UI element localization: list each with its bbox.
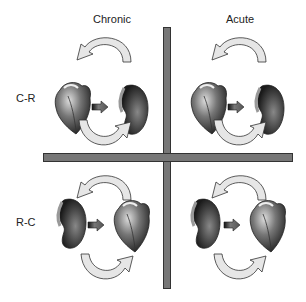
curved-arrow-bottom-cr-chronic [77,120,135,150]
curved-arrow-top-cr-chronic [75,38,135,68]
kidney-icon [54,198,90,252]
row-label-rc: R-C [16,216,36,228]
horizontal-divider [43,153,293,162]
column-title-acute: Acute [200,13,280,25]
heart-icon [113,200,153,256]
solid-arrow-icon [224,219,242,233]
solid-arrow-icon [92,101,110,115]
curved-arrow-bottom-rc-acute [212,254,270,284]
kidney-icon [188,198,224,252]
curved-arrow-bottom-rc-chronic [79,254,137,284]
heart-icon [249,200,289,256]
row-label-cr: C-R [16,92,36,104]
curved-arrow-top-cr-acute [210,38,270,68]
curved-arrow-bottom-cr-acute [212,120,270,150]
solid-arrow-icon [228,101,246,115]
solid-arrow-icon [88,219,106,233]
column-title-chronic: Chronic [72,13,152,25]
